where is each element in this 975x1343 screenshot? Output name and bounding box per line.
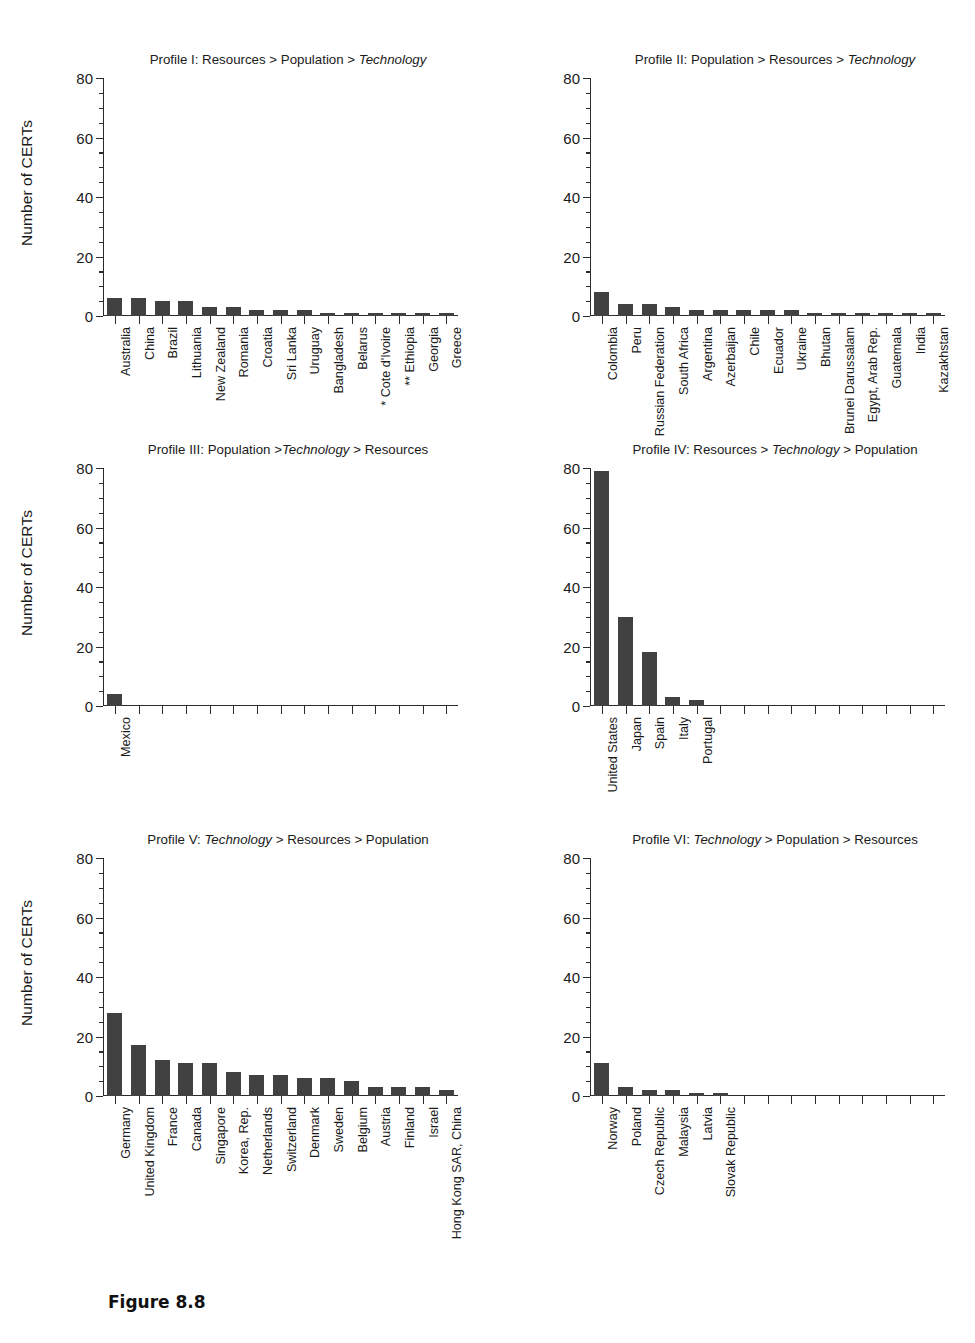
x-axis-tick-label: Mexico: [120, 717, 133, 757]
bar-series: [590, 468, 945, 706]
x-axis-tick: [626, 706, 627, 714]
plot-area: Profile VI: Technology > Population > Re…: [590, 858, 945, 1096]
y-axis-tick-label: 20: [563, 638, 580, 655]
chart-panel-profile-3: Number of CERTsProfile III: Population >…: [0, 438, 487, 828]
y-axis-title-text: Number of CERTs: [18, 900, 36, 1026]
bar: [415, 1087, 430, 1096]
bar: [226, 1072, 241, 1096]
chart-title: Profile V: Technology > Resources > Popu…: [103, 832, 473, 847]
x-axis-tick: [697, 706, 698, 714]
bar-series: [590, 78, 945, 316]
y-axis-tick-label: 0: [572, 1088, 580, 1105]
chart-row-1: Number of CERTsProfile I: Resources > Po…: [0, 48, 975, 438]
x-axis-tick-label: Japan: [631, 717, 644, 751]
y-axis-major-tick: [96, 316, 103, 317]
y-axis-major-tick: [96, 528, 103, 529]
x-axis-tick: [862, 1096, 863, 1104]
x-axis-tick: [352, 706, 353, 714]
x-axis-tick: [210, 316, 211, 324]
x-axis-tick: [162, 316, 163, 324]
x-axis-tick-label: Spain: [654, 717, 667, 749]
y-axis-major-tick: [96, 647, 103, 648]
x-axis-tick: [399, 1096, 400, 1104]
x-axis-tick: [115, 706, 116, 714]
y-axis-tick-label: 40: [76, 579, 93, 596]
y-axis-major-tick: [583, 197, 590, 198]
x-axis-tick-label: Norway: [607, 1107, 620, 1150]
bar: [618, 1087, 633, 1096]
bar: [178, 1063, 193, 1096]
x-axis-tick: [649, 316, 650, 324]
bar: [202, 307, 217, 316]
y-axis-title: Number of CERTs: [14, 438, 40, 708]
y-axis-major-tick: [583, 918, 590, 919]
x-axis-tick: [115, 1096, 116, 1104]
x-axis-tick-label: United Kingdom: [144, 1107, 157, 1197]
bar: [107, 694, 122, 706]
y-axis-tick-label: 20: [76, 248, 93, 265]
y-axis-major-tick: [583, 1037, 590, 1038]
x-axis-tick-label: Germany: [120, 1107, 133, 1159]
x-axis-tick: [697, 1096, 698, 1104]
y-axis-tick-label: 40: [76, 969, 93, 986]
x-axis-tick: [744, 706, 745, 714]
bar-series: [103, 468, 458, 706]
bar-series: [590, 858, 945, 1096]
y-axis-tick-label: 60: [563, 909, 580, 926]
x-axis-tick-label: Lithuania: [191, 327, 204, 378]
x-axis-tick: [626, 316, 627, 324]
x-axis-tick-label: Sweden: [333, 1107, 346, 1153]
x-axis-tick-label: Ecuador: [773, 327, 786, 374]
y-axis-tick-label: 60: [563, 519, 580, 536]
y-axis-major-tick: [583, 647, 590, 648]
x-axis-labels: NorwayPolandCzech RepublicMalaysiaLatvia…: [590, 1107, 945, 1247]
y-axis-major-tick: [583, 587, 590, 588]
x-axis-tick-label: Denmark: [309, 1107, 322, 1158]
x-axis-tick-label: Hong Kong SAR, China: [451, 1107, 464, 1239]
x-axis-tick: [399, 706, 400, 714]
x-axis-tick: [626, 1096, 627, 1104]
x-axis-tick-label: Guatemala: [891, 327, 904, 389]
x-axis-tick: [744, 1096, 745, 1104]
y-axis-major-tick: [96, 918, 103, 919]
y-axis-tick-label: 80: [563, 460, 580, 477]
x-axis-tick: [139, 706, 140, 714]
y-axis-tick-label: 20: [563, 248, 580, 265]
x-axis-tick: [399, 316, 400, 324]
chart-panel-profile-5: Number of CERTsProfile V: Technology > R…: [0, 828, 487, 1218]
x-axis-tick: [233, 316, 234, 324]
x-axis-tick-label: Finland: [404, 1107, 417, 1148]
x-axis-tick-label: Argentina: [702, 327, 715, 381]
y-axis-tick-label: 20: [563, 1028, 580, 1045]
bar: [594, 292, 609, 316]
y-axis-title-text: Number of CERTs: [18, 510, 36, 636]
bar: [665, 307, 680, 316]
x-axis-tick: [186, 1096, 187, 1104]
x-axis-tick-label: New Zealand: [215, 327, 228, 401]
x-axis-ticks: [590, 316, 945, 324]
y-axis-tick-label: 40: [563, 579, 580, 596]
x-axis-tick-label: ** Ethiopia: [404, 327, 417, 386]
bar: [131, 298, 146, 316]
x-axis-tick-label: France: [167, 1107, 180, 1146]
bar: [155, 301, 170, 316]
x-axis-tick-label: Israel: [428, 1107, 441, 1138]
x-axis-tick: [446, 706, 447, 714]
y-axis-major-tick: [583, 316, 590, 317]
x-axis-tick-label: Latvia: [702, 1107, 715, 1141]
x-axis-ticks: [103, 316, 458, 324]
x-axis-tick-label: Bangladesh: [333, 327, 346, 394]
x-axis-ticks: [590, 706, 945, 714]
y-axis-major-tick: [583, 257, 590, 258]
bar: [642, 304, 657, 316]
x-axis-tick: [768, 316, 769, 324]
x-axis-tick: [791, 316, 792, 324]
y-axis-tick-label: 60: [76, 909, 93, 926]
x-axis-tick-label: Croatia: [262, 327, 275, 368]
x-axis-tick: [886, 316, 887, 324]
x-axis-tick: [139, 316, 140, 324]
x-axis-tick: [304, 1096, 305, 1104]
y-axis-tick-label: 0: [572, 308, 580, 325]
bar: [594, 471, 609, 706]
x-axis-tick-label: Brazil: [167, 327, 180, 359]
